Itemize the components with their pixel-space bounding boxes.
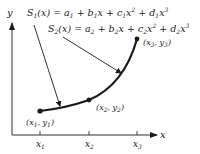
point-label-2: (x2, y2) [96,103,124,113]
s2-pointer-arrow [63,37,121,73]
y-axis-label: y [6,7,13,18]
equation-s2: S2(x) = a2 + b2x + c2x2 + d2x3 [48,22,190,35]
equation-s1: S1(x) = a1 + b1x + c1x2 + d1x3 [27,6,169,19]
point-1 [37,108,42,113]
spline-diagram: y x x1 x2 x3 (x1, y1) (x2, y2) (x3, y3) … [0,0,200,154]
tick-label-x1: x1 [36,139,45,150]
tick-label-x3: x3 [133,139,142,150]
tick-label-x2: x2 [85,139,94,150]
point-3 [135,37,140,42]
s1-pointer-arrow [34,25,60,106]
point-2 [87,98,92,103]
x-axis-label: x [160,129,166,140]
point-label-1: (x1, y1) [26,118,54,128]
point-label-3: (x3, y3) [143,38,171,48]
